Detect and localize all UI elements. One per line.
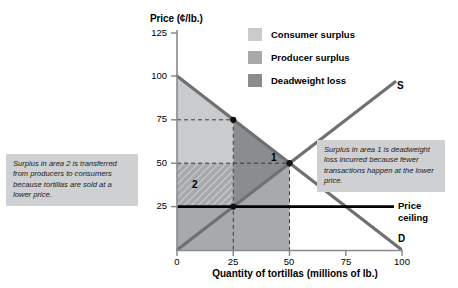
legend-label-consumer-surplus: Consumer surplus: [271, 29, 355, 40]
demand-at-q25-point: [230, 117, 236, 123]
x-axis-title: Quantity of tortillas (millions of lb.): [175, 268, 415, 279]
legend-label-deadweight-loss: Deadweight loss: [271, 75, 346, 86]
legend-label-producer-surplus: Producer surplus: [271, 52, 350, 63]
y-axis-title: Price (¢/lb.): [150, 13, 203, 24]
y-tick-label-125: 125: [145, 27, 167, 38]
equilibrium-point: [286, 160, 292, 166]
supply-curve-label: S: [397, 80, 404, 91]
callout-area-2: Surplus in area 2 is transferred from pr…: [6, 154, 138, 206]
demand-curve-label: D: [398, 233, 405, 244]
legend-swatch-consumer-surplus: [248, 28, 262, 41]
legend-swatch-producer-surplus: [248, 51, 262, 64]
area-2-label: 2: [192, 179, 198, 190]
price-ceiling-label: Price ceiling: [398, 200, 428, 223]
y-tick-label-75: 75: [145, 113, 167, 124]
economics-chart-figure: Price (¢/lb.) Quantity of tortillas (mil…: [0, 0, 458, 288]
legend-swatch-deadweight-loss: [248, 74, 262, 87]
x-tick-label-50: 50: [277, 256, 301, 267]
legend-item-producer-surplus: Producer surplus: [248, 47, 428, 68]
price-ceiling-label-line1: Price: [398, 200, 428, 212]
x-tick-label-25: 25: [221, 256, 245, 267]
transferred-surplus-area-2: [177, 163, 233, 206]
y-tick-marks: [171, 33, 177, 207]
supply-at-ceiling-point: [230, 204, 236, 210]
area-1-label: 1: [271, 152, 277, 163]
y-tick-label-50: 50: [145, 157, 167, 168]
y-tick-label-100: 100: [145, 70, 167, 81]
legend-item-consumer-surplus: Consumer surplus: [248, 24, 428, 45]
x-tick-label-100: 100: [390, 256, 414, 267]
x-tick-label-75: 75: [334, 256, 358, 267]
y-tick-label-25: 25: [145, 200, 167, 211]
price-ceiling-label-line2: ceiling: [398, 212, 428, 224]
callout-area-1: Surplus in area 1 is deadweight loss inc…: [317, 140, 445, 192]
x-tick-label-0: 0: [165, 256, 189, 267]
